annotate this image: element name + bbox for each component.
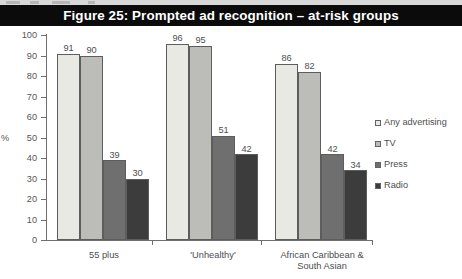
bar-any-advertising-55-plus [57, 54, 80, 241]
bar-value-tv-unhealthy: 95 [186, 36, 215, 45]
y-tick-50 [41, 138, 46, 139]
y-tick-20 [41, 199, 46, 200]
legend-swatch-radio-icon [375, 183, 381, 189]
bar-value-press-unhealthy: 51 [209, 126, 238, 135]
category-label-55-plus-line1: 55 plus [54, 250, 154, 261]
category-label-unhealthy: 'Unhealthy' [163, 250, 263, 261]
x-separator-tick-2 [261, 240, 262, 245]
y-axis-label-40: 40 [9, 154, 37, 163]
bar-radio-african-caribbean-south-asian [344, 170, 367, 240]
y-axis-label-60: 60 [9, 113, 37, 122]
category-label-african-caribbean-south-asian: African Caribbean & South Asian [266, 250, 378, 272]
legend-item-tv[interactable]: TV [375, 139, 396, 148]
x-separator-tick-1 [152, 240, 153, 245]
category-label-african-caribbean-south-asian-line2: South Asian [266, 261, 378, 272]
y-tick-40 [41, 158, 46, 159]
bar-value-radio-55-plus: 30 [123, 169, 152, 178]
x-axis-end-tick [372, 240, 373, 245]
y-tick-70 [41, 97, 46, 98]
y-axis-label-10: 10 [9, 216, 37, 225]
legend-item-any-advertising[interactable]: Any advertising [375, 118, 447, 127]
bar-value-radio-unhealthy: 42 [232, 145, 261, 154]
bar-radio-55-plus [126, 179, 149, 241]
bar-tv-unhealthy [189, 46, 212, 241]
y-axis-unit-label: % [1, 134, 9, 143]
y-tick-100 [41, 35, 46, 36]
y-axis-label-100: 100 [9, 31, 37, 40]
y-tick-80 [41, 76, 46, 77]
figure-page: Figure 25: Prompted ad recognition – at-… [0, 0, 462, 279]
category-label-unhealthy-line1: 'Unhealthy' [163, 250, 263, 261]
bar-chart: 100 90 80 70 60 50 40 30 20 10 0 % 91 90… [0, 26, 462, 279]
bar-value-tv-55-plus: 90 [77, 46, 106, 55]
y-axis-label-20: 20 [9, 195, 37, 204]
legend-swatch-press-icon [375, 162, 381, 168]
bar-value-press-55-plus: 39 [100, 151, 129, 160]
bar-any-advertising-african-caribbean-south-asian [275, 64, 298, 241]
legend-label-press: Press [384, 160, 408, 169]
y-axis-label-30: 30 [9, 175, 37, 184]
y-tick-10 [41, 220, 46, 221]
plot-area: 91 90 39 30 96 95 51 42 86 82 42 34 [47, 35, 372, 240]
bar-tv-african-caribbean-south-asian [298, 72, 321, 241]
y-axis-label-90: 90 [9, 52, 37, 61]
y-tick-90 [41, 56, 46, 57]
category-label-55-plus: 55 plus [54, 250, 154, 261]
category-label-african-caribbean-south-asian-line1: African Caribbean & [266, 250, 378, 261]
bar-value-radio-african-caribbean-south-asian: 34 [341, 161, 370, 170]
bar-any-advertising-unhealthy [166, 44, 189, 241]
y-tick-0 [41, 240, 46, 241]
bar-value-tv-african-caribbean-south-asian: 82 [295, 62, 324, 71]
y-axis-label-70: 70 [9, 93, 37, 102]
y-axis-label-50: 50 [9, 134, 37, 143]
legend-label-any-advertising: Any advertising [384, 118, 447, 127]
figure-title: Figure 25: Prompted ad recognition – at-… [63, 9, 398, 22]
y-tick-30 [41, 179, 46, 180]
legend-label-radio: Radio [384, 181, 408, 190]
legend-item-press[interactable]: Press [375, 160, 408, 169]
bar-tv-55-plus [80, 56, 103, 241]
legend-label-tv: TV [384, 139, 396, 148]
y-axis-label-80: 80 [9, 72, 37, 81]
bar-value-press-african-caribbean-south-asian: 42 [318, 145, 347, 154]
y-axis-label-0: 0 [9, 236, 37, 245]
x-axis-line [46, 240, 373, 241]
legend-swatch-tv-icon [375, 141, 381, 147]
figure-title-banner: Figure 25: Prompted ad recognition – at-… [0, 5, 462, 26]
legend-swatch-any-advertising-icon [375, 120, 381, 126]
legend-item-radio[interactable]: Radio [375, 181, 408, 190]
y-tick-60 [41, 117, 46, 118]
bar-radio-unhealthy [235, 154, 258, 240]
